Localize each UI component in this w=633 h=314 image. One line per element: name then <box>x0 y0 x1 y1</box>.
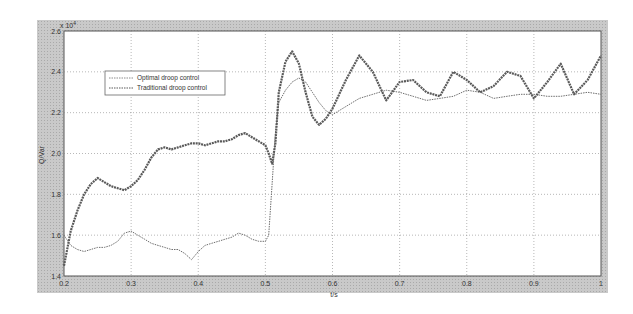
y-tick-label: 1.8 <box>51 191 61 198</box>
line-chart: 0.20.30.40.50.60.70.80.911.41.61.82.02.2… <box>0 0 633 314</box>
legend-label-optimal: Optimal droop control <box>137 74 200 82</box>
y-multiplier: x 104 <box>60 20 76 29</box>
x-tick-label: 0.6 <box>328 280 338 287</box>
legend-label-traditional: Traditional droop control <box>137 84 207 92</box>
y-tick-label: 2.0 <box>51 150 61 157</box>
x-tick-label: 0.8 <box>462 280 472 287</box>
x-tick-label: 0.4 <box>193 280 203 287</box>
x-axis-label: t/s <box>330 291 338 298</box>
x-tick-label: 0.9 <box>529 280 539 287</box>
x-tick-label: 0.3 <box>126 280 136 287</box>
x-tick-label: 0.7 <box>395 280 405 287</box>
y-axis-label: Q/Var <box>38 145 46 163</box>
y-tick-label: 1.4 <box>51 273 61 280</box>
x-tick-label: 0.5 <box>261 280 271 287</box>
y-tick-label: 1.6 <box>51 232 61 239</box>
y-tick-label: 2.4 <box>51 68 61 75</box>
x-tick-label: 0.2 <box>59 280 69 287</box>
y-tick-label: 2.2 <box>51 109 61 116</box>
legend: Optimal droop control Traditional droop … <box>105 71 225 95</box>
x-tick-label: 1 <box>599 280 603 287</box>
